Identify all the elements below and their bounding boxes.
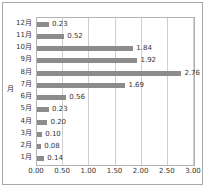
value-label: 1.92 — [140, 57, 156, 64]
x-tick-label: 1.00 — [74, 167, 102, 175]
value-label: 1.84 — [136, 45, 152, 52]
value-label: 2.76 — [184, 70, 200, 77]
bar-7月 — [37, 83, 125, 88]
y-tick-label: 10月 — [16, 44, 32, 51]
value-label: 0.20 — [50, 119, 66, 126]
bar-chart: 月 0.230.521.841.922.761.690.560.230.200.… — [2, 2, 203, 185]
bar-10月 — [37, 46, 133, 51]
gridline — [62, 18, 63, 165]
value-label: 0.10 — [45, 131, 61, 138]
value-label: 0.52 — [67, 33, 83, 40]
x-tick-label: 0.00 — [22, 167, 50, 175]
x-tick-label: 0.50 — [48, 167, 76, 175]
bar-5月 — [37, 107, 49, 112]
bar-6月 — [37, 95, 66, 100]
x-tick-label: 3.00 — [179, 167, 207, 175]
y-tick-label: 8月 — [21, 69, 32, 76]
value-label: 0.56 — [69, 94, 85, 101]
bar-12月 — [37, 22, 49, 27]
gridline — [167, 18, 168, 165]
value-label: 0.23 — [52, 21, 68, 28]
x-tick-label: 1.50 — [101, 167, 129, 175]
y-tick-label: 1月 — [21, 154, 32, 161]
value-label: 0.14 — [47, 155, 63, 162]
y-tick-label: 9月 — [21, 56, 32, 63]
x-tick-label: 2.00 — [127, 167, 155, 175]
y-tick-label: 3月 — [21, 130, 32, 137]
y-tick-label: 11月 — [16, 32, 32, 39]
y-tick-label: 5月 — [21, 105, 32, 112]
bar-4月 — [37, 120, 47, 125]
bar-1月 — [37, 156, 44, 161]
y-tick-label: 2月 — [21, 142, 32, 149]
x-axis: 0.000.501.001.502.002.503.00 — [3, 167, 207, 179]
gridline — [88, 18, 89, 165]
bar-2月 — [37, 144, 41, 149]
bar-8月 — [37, 71, 181, 76]
gridline — [193, 18, 194, 165]
bar-11月 — [37, 34, 64, 39]
y-tick-label: 6月 — [21, 93, 32, 100]
gridline — [141, 18, 142, 165]
value-label: 1.69 — [128, 82, 144, 89]
plot-area: 0.230.521.841.922.761.690.560.230.200.10… — [36, 17, 195, 166]
bar-9月 — [37, 58, 137, 63]
y-tick-label: 7月 — [21, 81, 32, 88]
bar-3月 — [37, 132, 42, 137]
gridline — [115, 18, 116, 165]
y-axis: 12月11月10月9月8月7月6月5月4月3月2月1月 — [3, 17, 34, 164]
x-tick-label: 2.50 — [153, 167, 181, 175]
value-label: 0.08 — [44, 143, 60, 150]
y-tick-label: 4月 — [21, 118, 32, 125]
y-tick-label: 12月 — [16, 20, 32, 27]
value-label: 0.23 — [52, 106, 68, 113]
